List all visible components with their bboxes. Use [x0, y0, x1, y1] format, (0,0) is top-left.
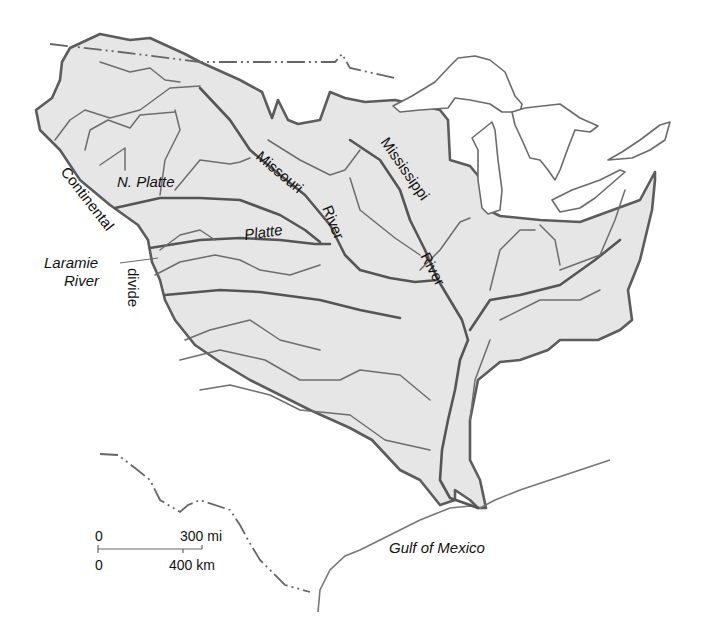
lake-ontario — [608, 122, 670, 160]
scale-zero-mi: 0 — [95, 528, 103, 544]
lake-superior — [393, 56, 522, 112]
scale-bar: 0 300 mi 0 400 km — [95, 528, 222, 573]
lake-huron — [512, 104, 598, 180]
label-n-platte: N. Platte — [117, 173, 175, 190]
drainage-basin-map: Continental divide N. Platte Platte Lara… — [0, 0, 715, 622]
scale-300-mi: 300 mi — [180, 528, 222, 544]
scale-400-km: 400 km — [169, 557, 215, 573]
label-divide: divide — [125, 268, 142, 307]
lake-erie — [552, 170, 625, 212]
scale-zero-km: 0 — [95, 557, 103, 573]
label-gulf-of-mexico: Gulf of Mexico — [389, 539, 485, 556]
label-laramie: Laramie — [44, 254, 98, 271]
label-laramie-river: River — [64, 272, 100, 289]
